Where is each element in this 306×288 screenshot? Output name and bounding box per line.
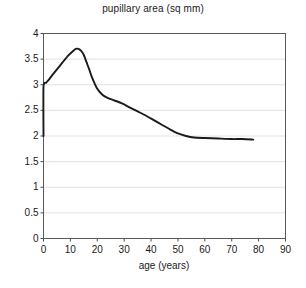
- y-tick-label: 1: [11, 181, 39, 192]
- y-tick-label: 0.5: [11, 207, 39, 218]
- data-series-group: [43, 49, 253, 140]
- pupillary-area-chart: pupillary area (sq mm) 00.511.522.533.54…: [0, 0, 306, 288]
- y-tick-label: 0: [11, 233, 39, 244]
- y-tick-label: 3.5: [11, 53, 39, 64]
- axis-ticks-group: [41, 34, 286, 242]
- x-tick-label: 40: [140, 244, 162, 255]
- x-tick-label: 50: [167, 244, 189, 255]
- x-tick-label: 20: [86, 244, 108, 255]
- x-axis-title: age (years): [43, 260, 285, 271]
- y-tick-label: 2.5: [11, 104, 39, 115]
- y-tick-label: 2: [11, 130, 39, 141]
- y-tick-label: 1.5: [11, 156, 39, 167]
- data-line-pupillary-area: [43, 49, 253, 140]
- x-tick-label: 80: [248, 244, 270, 255]
- x-tick-label: 0: [33, 244, 55, 255]
- y-tick-label: 4: [11, 28, 39, 39]
- x-tick-label: 30: [113, 244, 135, 255]
- x-tick-label: 90: [275, 244, 297, 255]
- gridlines-group: [44, 59, 286, 213]
- x-tick-label: 70: [221, 244, 243, 255]
- x-tick-label: 10: [59, 244, 81, 255]
- y-tick-label: 3: [11, 79, 39, 90]
- x-tick-label: 60: [194, 244, 216, 255]
